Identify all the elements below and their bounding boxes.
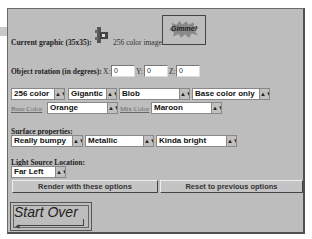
rotation-x-input[interactable]: 0: [111, 65, 135, 77]
texture-value: Really bumpy: [14, 136, 66, 145]
light-location-select[interactable]: Far Left ▲▼: [11, 166, 66, 178]
color-depth-select[interactable]: 256 color ▲▼: [11, 88, 65, 100]
dropdown-arrow-icon: ▲▼: [107, 103, 117, 113]
rotation-x-label: X:: [103, 67, 111, 76]
3d-object-thumbnail-icon: [95, 27, 109, 43]
gimme-label: Gimme!: [163, 25, 205, 32]
brightness-select[interactable]: Kinda bright ▲▼: [156, 135, 237, 147]
dropdown-arrow-icon: ▲▼: [106, 89, 116, 99]
shape-value: Blob: [122, 89, 140, 98]
texture-select[interactable]: Really bumpy ▲▼: [11, 135, 83, 147]
start-over-label: Start Over: [14, 204, 78, 220]
mix-color-select[interactable]: Maroon ▲▼: [151, 102, 222, 114]
rotation-z-input[interactable]: 0: [176, 65, 200, 77]
current-graphic-label: Current graphic (35x35):: [11, 38, 92, 47]
rotation-z-label: Z:: [169, 67, 176, 76]
mix-color-link[interactable]: Mix Color: [120, 105, 149, 113]
size-select[interactable]: Gigantic ▲▼: [68, 88, 117, 100]
dropdown-arrow-icon: ▲▼: [143, 136, 153, 146]
material-select[interactable]: Metallic ▲▼: [85, 135, 154, 147]
base-color-link[interactable]: Base Color: [11, 105, 42, 113]
rotation-y-input[interactable]: 0: [144, 65, 168, 77]
base-color-select[interactable]: Orange ▲▼: [47, 102, 118, 114]
image-info-text: 256 color image: [113, 38, 162, 47]
color-depth-value: 256 color: [14, 89, 49, 98]
render-button[interactable]: Render with these options: [12, 180, 158, 193]
start-over-button[interactable]: Start Over ◀: [10, 202, 92, 231]
size-value: Gigantic: [71, 89, 103, 98]
return-arrow-icon: [17, 219, 84, 226]
light-location-value: Far Left: [14, 167, 43, 176]
gimme-button[interactable]: Gimme!: [162, 15, 206, 45]
reset-button[interactable]: Reset to previous options: [160, 180, 303, 193]
color-mode-select[interactable]: Base color only ▲▼: [192, 88, 270, 100]
dropdown-arrow-icon: ▲▼: [179, 89, 189, 99]
dropdown-arrow-icon: ▲▼: [211, 103, 221, 113]
brightness-value: Kinda bright: [159, 136, 206, 145]
color-mode-value: Base color only: [195, 89, 255, 98]
dropdown-arrow-icon: ▲▼: [226, 136, 236, 146]
shape-select[interactable]: Blob ▲▼: [119, 88, 190, 100]
mix-color-value: Maroon: [154, 103, 183, 112]
rotation-y-label: Y:: [136, 67, 143, 76]
return-arrowhead-icon: ◀: [15, 223, 20, 229]
dropdown-arrow-icon: ▲▼: [54, 89, 64, 99]
dropdown-arrow-icon: ▲▼: [259, 89, 269, 99]
dropdown-arrow-icon: ▲▼: [72, 136, 82, 146]
base-color-value: Orange: [50, 103, 78, 112]
rotation-label: Object rotation (in degrees):: [11, 67, 102, 76]
dropdown-arrow-icon: ▲▼: [55, 167, 65, 177]
material-value: Metallic: [88, 136, 117, 145]
